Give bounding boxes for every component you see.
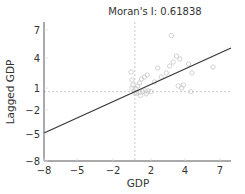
data-point: [156, 66, 160, 70]
y-tick-label: 4: [34, 53, 40, 64]
data-point: [129, 70, 133, 74]
x-tick-label: −5: [70, 165, 85, 176]
data-point: [138, 93, 142, 97]
data-point: [169, 33, 173, 37]
data-point: [211, 65, 215, 69]
data-point: [178, 57, 182, 61]
y-tick-label: 7: [34, 25, 40, 36]
chart-title: Moran's I: 0.61838: [108, 6, 201, 17]
y-tick-label: −8: [25, 156, 40, 167]
moran-scatter-chart: Moran's I: 0.61838 −8−5−2247 −8−5−2147 G…: [0, 0, 245, 194]
data-point: [130, 78, 134, 82]
x-tick-label: 2: [148, 165, 154, 176]
data-point: [190, 71, 194, 75]
x-tick-label: −8: [37, 165, 52, 176]
x-tick-label: 7: [217, 165, 223, 176]
y-tick-label: −5: [25, 129, 40, 140]
data-point: [164, 71, 168, 75]
data-point: [171, 60, 175, 64]
x-tick-label: −2: [106, 165, 121, 176]
y-axis-ticks: −8−5−2147: [25, 25, 48, 167]
x-tick-label: 4: [182, 165, 188, 176]
y-tick-label: 1: [34, 83, 40, 94]
data-point: [137, 90, 141, 94]
y-axis-label: Lagged GDP: [4, 60, 16, 125]
y-tick-label: −2: [25, 105, 40, 116]
data-point: [186, 62, 190, 66]
scatter-points: [129, 33, 215, 97]
data-point: [168, 64, 172, 68]
x-axis-label: GDP: [127, 177, 150, 189]
regression-line: [44, 48, 231, 133]
